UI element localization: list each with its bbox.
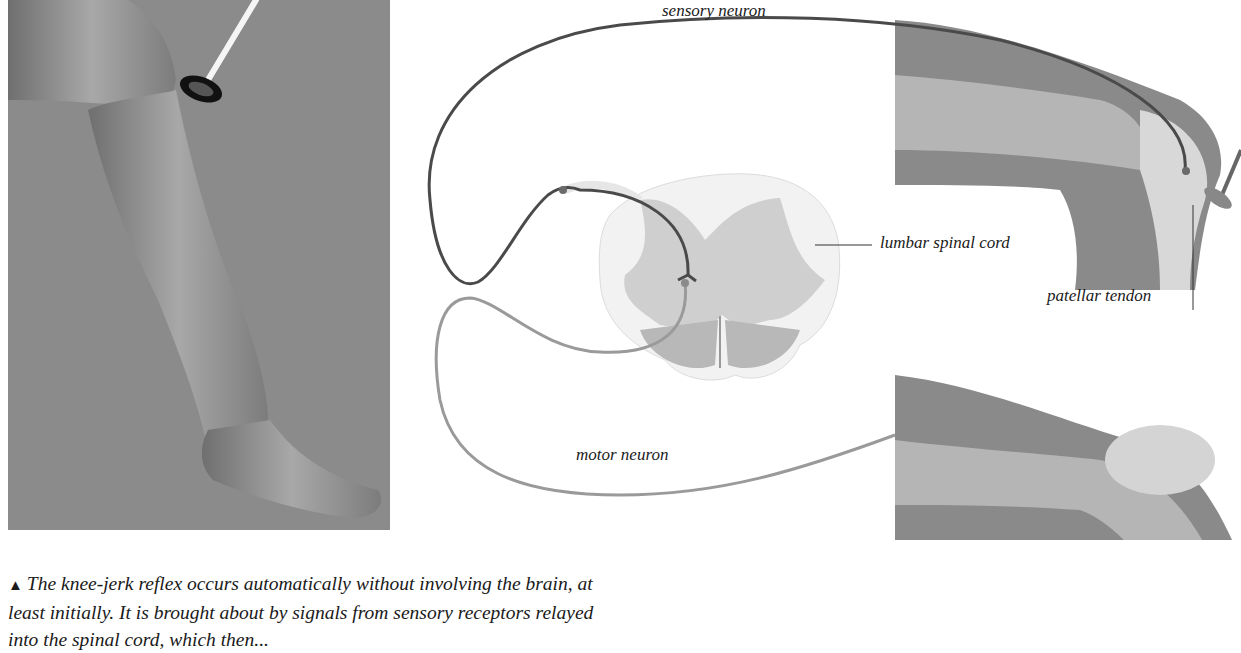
leg-photo-illustration xyxy=(8,0,390,530)
sensory-receptor-end xyxy=(1182,167,1190,175)
caption-line-3: into the spinal cord, which then... xyxy=(8,626,908,653)
motor-neuron-label: motor neuron xyxy=(576,445,668,465)
sensory-neuron-label: sensory neuron xyxy=(662,1,766,21)
lumbar-spinal-cord-label: lumbar spinal cord xyxy=(880,233,1010,253)
reflex-arc-diagram xyxy=(395,0,1241,540)
sensory-cell-body xyxy=(559,186,567,194)
knee-reflex-photo xyxy=(8,0,390,530)
motor-cell-body xyxy=(681,279,689,287)
patellar-tendon-label: patellar tendon xyxy=(1047,286,1151,306)
lower-knee-muscle-illustration xyxy=(895,375,1241,540)
caption-line-2: least initially. It is brought about by … xyxy=(8,599,908,626)
spinal-cord-cross-section xyxy=(565,174,840,380)
caption-line-1: ▲The knee-jerk reflex occurs automatical… xyxy=(8,570,908,599)
figure-caption: ▲The knee-jerk reflex occurs automatical… xyxy=(8,570,908,653)
triangle-marker-icon: ▲ xyxy=(8,577,23,593)
reflex-arc-svg xyxy=(395,0,1241,540)
